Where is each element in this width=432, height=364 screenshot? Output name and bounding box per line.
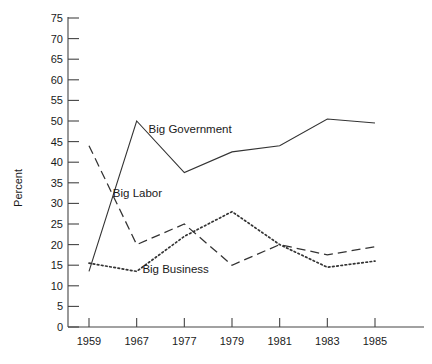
x-tick-label: 1967 — [124, 335, 148, 347]
series-label-big-government: Big Government — [149, 123, 233, 135]
y-tick-label: 25 — [51, 218, 63, 230]
y-tick-label: 75 — [51, 12, 63, 24]
y-tick-label: 10 — [51, 280, 63, 292]
series-label-big-labor: Big Labor — [113, 187, 162, 199]
x-tick-label: 1959 — [77, 335, 101, 347]
y-tick-label: 5 — [57, 300, 63, 312]
y-tick-label: 50 — [51, 115, 63, 127]
series-label-big-business: Big Business — [142, 263, 209, 275]
series-line-big-business — [89, 212, 375, 272]
y-axis-title-text: Percent — [12, 169, 24, 207]
series-line-big-labor — [89, 146, 375, 265]
y-tick-label: 15 — [51, 259, 63, 271]
line-chart: 051015202530354045505560657075 195919671… — [0, 0, 432, 364]
y-tick-label: 35 — [51, 177, 63, 189]
y-tick-label: 30 — [51, 197, 63, 209]
y-tick-label: 40 — [51, 156, 63, 168]
series-annotations: Big GovernmentBig LaborBig Business — [113, 123, 233, 275]
x-tick-label: 1983 — [315, 335, 339, 347]
x-tick-label: 1979 — [220, 335, 244, 347]
y-axis-title: Percent — [12, 169, 24, 207]
y-tick-label: 65 — [51, 53, 63, 65]
y-tick-label: 0 — [57, 321, 63, 333]
x-tick-label: 1985 — [363, 335, 387, 347]
x-tick-label: 1981 — [267, 335, 291, 347]
chart-canvas: 051015202530354045505560657075 195919671… — [0, 0, 432, 364]
y-tick-label: 45 — [51, 136, 63, 148]
x-axis: 1959196719771979198119831985 — [68, 318, 424, 347]
y-tick-label: 20 — [51, 239, 63, 251]
y-axis: 051015202530354045505560657075 — [51, 12, 79, 333]
y-tick-label: 60 — [51, 74, 63, 86]
y-tick-label: 55 — [51, 94, 63, 106]
y-tick-label: 70 — [51, 33, 63, 45]
x-tick-label: 1977 — [172, 335, 196, 347]
